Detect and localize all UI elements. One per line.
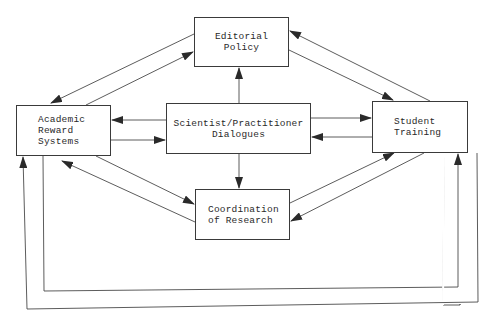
node-label: Editorial Policy xyxy=(215,31,268,53)
node-academic-reward-systems: Academic Reward Systems xyxy=(16,105,111,156)
node-label: Coordination of Research xyxy=(208,204,279,226)
node-editorial-policy: Editorial Policy xyxy=(194,17,289,67)
node-scientist-practitioner-dialogues: Scientist/Practitioner Dialogues xyxy=(166,103,311,154)
node-label: Student Training xyxy=(394,116,441,138)
node-label: Scientist/Practitioner Dialogues xyxy=(174,118,304,140)
node-student-training: Student Training xyxy=(372,101,468,153)
node-coordination-of-research: Coordination of Research xyxy=(195,189,290,240)
node-label: Academic Reward Systems xyxy=(38,114,85,147)
